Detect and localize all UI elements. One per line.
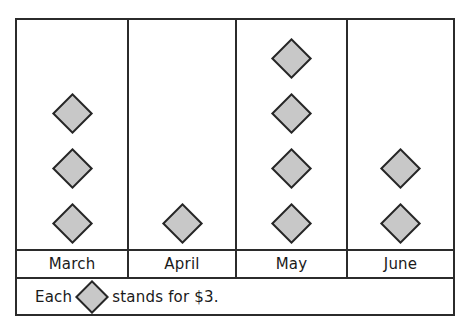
- category-label-march: March: [17, 251, 127, 277]
- diamond-symbol: [271, 203, 312, 244]
- label-cell-june: June: [346, 251, 453, 277]
- label-cell-march: March: [17, 251, 127, 277]
- diamond-symbol: [271, 148, 312, 189]
- diamond-symbol: [380, 148, 421, 189]
- diamond-symbol: [271, 93, 312, 134]
- pictograph-column-april: [127, 20, 235, 249]
- category-label-may: May: [237, 251, 346, 277]
- diamond-symbol: [52, 148, 93, 189]
- symbol-stack-june: [348, 148, 453, 244]
- legend-prefix-text: Each: [35, 288, 72, 306]
- symbol-stack-april: [129, 203, 235, 244]
- pictograph-plot-area: [17, 20, 453, 249]
- pictograph-column-may: [235, 20, 346, 249]
- diamond-symbol: [162, 203, 203, 244]
- category-label-april: April: [129, 251, 235, 277]
- diamond-symbol: [271, 38, 312, 79]
- pictograph-column-march: [17, 20, 127, 249]
- pictograph-column-june: [346, 20, 453, 249]
- diamond-symbol: [74, 279, 110, 315]
- category-label-june: June: [348, 251, 453, 277]
- diamond-symbol: [52, 93, 93, 134]
- pictograph-label-row: March April May June: [17, 249, 453, 277]
- symbol-stack-march: [17, 93, 127, 244]
- label-cell-may: May: [235, 251, 346, 277]
- diamond-symbol: [52, 203, 93, 244]
- diamond-symbol: [380, 203, 421, 244]
- legend-suffix-text: stands for $3.: [112, 288, 219, 306]
- symbol-stack-may: [237, 38, 346, 244]
- pictograph-legend: Each stands for $3.: [17, 277, 453, 315]
- pictograph-table: March April May June Each stands for $3.: [15, 18, 455, 316]
- label-cell-april: April: [127, 251, 235, 277]
